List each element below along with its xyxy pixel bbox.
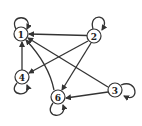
node-6: 6 — [51, 90, 65, 104]
node-label: 1 — [18, 30, 24, 40]
edge-6-1 — [26, 40, 54, 90]
graph-diagram: 1 2 3 4 6 — [0, 0, 142, 126]
node-label: 2 — [91, 32, 97, 42]
edge-3-6 — [66, 92, 108, 98]
edge-6-6 — [50, 103, 63, 115]
node-2: 2 — [87, 29, 101, 43]
node-label: 6 — [55, 93, 61, 103]
node-4: 4 — [15, 70, 29, 84]
edge-2-6 — [62, 43, 91, 90]
edge-4-4 — [14, 83, 27, 94]
node-3: 3 — [108, 83, 122, 97]
node-label: 4 — [19, 73, 25, 83]
edge-2-2 — [92, 17, 104, 30]
node-label: 3 — [112, 86, 118, 96]
edge-3-3 — [121, 84, 135, 98]
edge-2-1 — [29, 34, 87, 36]
node-1: 1 — [14, 27, 28, 41]
